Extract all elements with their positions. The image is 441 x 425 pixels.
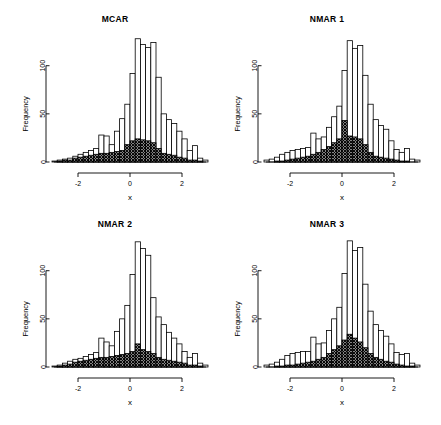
x-axis: -202 <box>287 173 396 187</box>
histogram-series-complete <box>52 242 208 367</box>
x-tick-label: -2 <box>75 180 81 187</box>
x-tick-label: 0 <box>128 180 132 187</box>
y-tick-label: 50 <box>40 110 47 118</box>
panel-mcar: MCAR050100Frequency-202x <box>10 10 220 210</box>
x-tick-label: 2 <box>392 385 396 392</box>
plot-area-nmar1: 050100Frequency-202x <box>222 10 432 210</box>
plot-area-mcar: 050100Frequency-202x <box>10 10 220 210</box>
x-axis-title: x <box>128 398 132 407</box>
y-axis: 050100 <box>252 265 262 369</box>
y-axis-title: Frequency <box>22 96 31 132</box>
x-axis: -202 <box>75 173 184 187</box>
y-tick-label: 0 <box>40 365 47 369</box>
x-tick-label: -2 <box>75 385 81 392</box>
x-axis-title: x <box>128 193 132 202</box>
panel-title-mcar: MCAR <box>10 14 220 24</box>
x-tick-label: 2 <box>180 385 184 392</box>
x-tick-label: -2 <box>287 385 293 392</box>
y-tick-label: 100 <box>252 60 259 72</box>
panel-nmar3: NMAR 3050100Frequency-202x <box>222 215 432 415</box>
plot-area-nmar3: 050100Frequency-202x <box>222 215 432 415</box>
y-tick-label: 50 <box>40 315 47 323</box>
y-axis-title: Frequency <box>234 301 243 337</box>
y-tick-label: 0 <box>252 160 259 164</box>
x-tick-label: 0 <box>340 180 344 187</box>
y-tick-label: 100 <box>40 265 47 277</box>
x-tick-label: 2 <box>180 180 184 187</box>
y-axis: 050100 <box>40 265 50 369</box>
y-tick-label: 0 <box>40 160 47 164</box>
y-tick-label: 50 <box>252 110 259 118</box>
y-axis: 050100 <box>40 60 50 164</box>
panel-title-nmar1: NMAR 1 <box>222 14 432 24</box>
x-axis: -202 <box>75 378 184 392</box>
panel-nmar2: NMAR 2050100Frequency-202x <box>10 215 220 415</box>
y-axis-title: Frequency <box>234 96 243 132</box>
x-tick-label: -2 <box>287 180 293 187</box>
figure-panel-grid: MCAR050100Frequency-202xNMAR 1050100Freq… <box>0 0 441 425</box>
x-axis: -202 <box>287 378 396 392</box>
panel-nmar1: NMAR 1050100Frequency-202x <box>222 10 432 210</box>
y-tick-label: 0 <box>252 365 259 369</box>
y-axis: 050100 <box>252 60 262 164</box>
x-axis-title: x <box>340 398 344 407</box>
plot-area-nmar2: 050100Frequency-202x <box>10 215 220 415</box>
x-tick-label: 0 <box>340 385 344 392</box>
x-tick-label: 0 <box>128 385 132 392</box>
x-axis-title: x <box>340 193 344 202</box>
y-tick-label: 100 <box>40 60 47 72</box>
y-tick-label: 100 <box>252 265 259 277</box>
y-axis-title: Frequency <box>22 301 31 337</box>
panel-title-nmar2: NMAR 2 <box>10 219 220 229</box>
y-tick-label: 50 <box>252 315 259 323</box>
x-tick-label: 2 <box>392 180 396 187</box>
panel-title-nmar3: NMAR 3 <box>222 219 432 229</box>
